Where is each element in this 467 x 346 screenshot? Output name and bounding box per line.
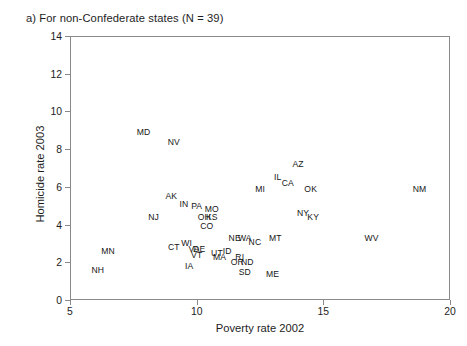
data-point-label: NH xyxy=(92,265,105,275)
y-tick-label: 0 xyxy=(0,295,62,306)
data-point-label: IA xyxy=(185,261,193,271)
y-tick-mark xyxy=(65,36,70,37)
x-tick-label: 15 xyxy=(303,306,343,317)
y-tick-mark xyxy=(65,262,70,263)
data-point-label: WV xyxy=(364,233,378,243)
data-point-label: NM xyxy=(413,184,427,194)
data-point-label: PA xyxy=(191,201,202,211)
y-tick-mark xyxy=(65,187,70,188)
x-tick-mark xyxy=(197,300,198,305)
data-point-label: CT xyxy=(168,242,180,252)
y-tick-label: 12 xyxy=(0,68,62,79)
data-point-label: MI xyxy=(255,184,265,194)
data-point-label: AK xyxy=(165,191,177,201)
data-point-label: OK xyxy=(304,184,317,194)
plot-area: MDNVAZILCAMIOKNMAKINPAMONYKYNJOHKSCONEWA… xyxy=(70,36,450,300)
y-tick-mark xyxy=(65,225,70,226)
y-tick-label: 2 xyxy=(0,257,62,268)
x-tick-mark xyxy=(450,300,451,305)
x-tick-label: 20 xyxy=(430,306,467,317)
y-tick-mark xyxy=(65,111,70,112)
data-point-label: MD xyxy=(137,127,151,137)
y-tick-label: 10 xyxy=(0,106,62,117)
x-tick-label: 5 xyxy=(50,306,90,317)
x-tick-label: 10 xyxy=(177,306,217,317)
data-point-label: KY xyxy=(307,212,319,222)
data-point-label: IN xyxy=(180,199,189,209)
x-axis-label: Poverty rate 2002 xyxy=(70,322,450,334)
data-point-label: CO xyxy=(200,221,213,231)
data-point-label: MN xyxy=(101,246,115,256)
y-tick-label: 8 xyxy=(0,144,62,155)
y-tick-label: 6 xyxy=(0,181,62,192)
data-point-label: IL xyxy=(274,172,281,182)
x-tick-mark xyxy=(70,300,71,305)
data-point-label: NV xyxy=(168,137,180,147)
data-point-label: CA xyxy=(282,178,294,188)
data-point-label: ID xyxy=(223,246,232,256)
data-point-label: NC xyxy=(249,237,262,247)
scatter-figure: a) For non-Confederate states (N = 39) H… xyxy=(0,0,467,346)
data-point-label: AZ xyxy=(292,159,303,169)
y-tick-mark xyxy=(65,149,70,150)
y-tick-label: 14 xyxy=(0,31,62,42)
y-tick-mark xyxy=(65,74,70,75)
panel-caption: a) For non-Confederate states (N = 39) xyxy=(26,12,224,24)
y-tick-label: 4 xyxy=(0,219,62,230)
x-tick-mark xyxy=(323,300,324,305)
data-point-label: SD xyxy=(239,267,251,277)
data-point-label: ME xyxy=(266,269,279,279)
data-point-label: VT xyxy=(191,250,202,260)
data-point-label: MT xyxy=(269,233,282,243)
data-point-label: NJ xyxy=(148,212,159,222)
